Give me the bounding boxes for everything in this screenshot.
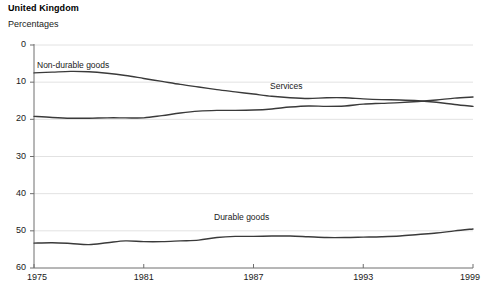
- x-tick-label-1981: 1981: [124, 272, 164, 282]
- x-tick-label-1993: 1993: [343, 272, 383, 282]
- x-tick-label-1975: 1975: [17, 272, 57, 282]
- y-tick-label-50: 10: [4, 76, 26, 86]
- series-line-non-durable-goods: [34, 71, 473, 106]
- y-tick-label-30: 30: [4, 151, 26, 161]
- y-tick-label-40: 20: [4, 113, 26, 123]
- y-tick-label-0: 60: [4, 262, 26, 272]
- series-label-services: Services: [270, 81, 303, 91]
- x-tick-label-1999: 1999: [450, 272, 485, 282]
- series-label-durable-goods: Durable goods: [214, 212, 269, 222]
- y-tick-label-20: 40: [4, 188, 26, 198]
- series-label-non-durable-goods: Non-durable goods: [37, 60, 109, 70]
- y-tick-label-10: 50: [4, 225, 26, 235]
- y-tick-label-60: 0: [4, 39, 26, 49]
- x-tick-label-1987: 1987: [234, 272, 274, 282]
